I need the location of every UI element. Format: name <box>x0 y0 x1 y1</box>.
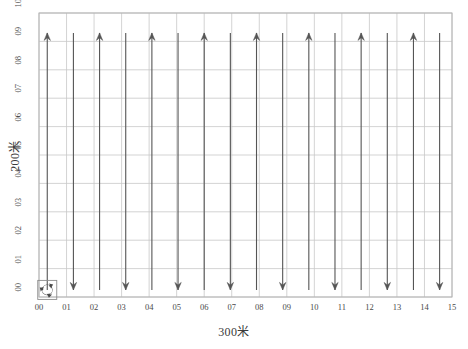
x-tick-label: 07 <box>219 302 245 312</box>
y-tick-label: 03 <box>13 198 23 224</box>
y-tick-label: 04 <box>13 169 23 195</box>
x-tick-label: 11 <box>329 302 355 312</box>
x-tick-label: 06 <box>191 302 217 312</box>
x-tick-label: 03 <box>109 302 135 312</box>
y-tick-label: 06 <box>13 113 23 139</box>
plot-canvas <box>0 0 468 349</box>
x-tick-label: 14 <box>411 302 437 312</box>
x-axis-title: 300米 <box>0 322 468 340</box>
y-tick-label: 02 <box>13 226 23 252</box>
x-tick-label: 15 <box>439 302 465 312</box>
x-tick-label: 01 <box>54 302 80 312</box>
y-tick-label: 00 <box>13 283 23 309</box>
y-tick-label: 09 <box>13 27 23 53</box>
x-tick-label: 10 <box>301 302 327 312</box>
x-tick-label: 02 <box>81 302 107 312</box>
y-tick-label: 08 <box>13 56 23 82</box>
coverage-path-figure: 200米 300米 0001020304050607080910 0001020… <box>0 0 468 349</box>
x-tick-label: 05 <box>164 302 190 312</box>
y-tick-label: 05 <box>13 141 23 167</box>
y-tick-label: 10 <box>13 0 23 25</box>
x-tick-label: 00 <box>26 302 52 312</box>
x-tick-label: 08 <box>246 302 272 312</box>
x-tick-label: 13 <box>384 302 410 312</box>
x-tick-label: 04 <box>136 302 162 312</box>
y-tick-label: 01 <box>13 255 23 281</box>
y-tick-label: 07 <box>13 84 23 110</box>
x-tick-label: 09 <box>274 302 300 312</box>
x-tick-label: 12 <box>356 302 382 312</box>
